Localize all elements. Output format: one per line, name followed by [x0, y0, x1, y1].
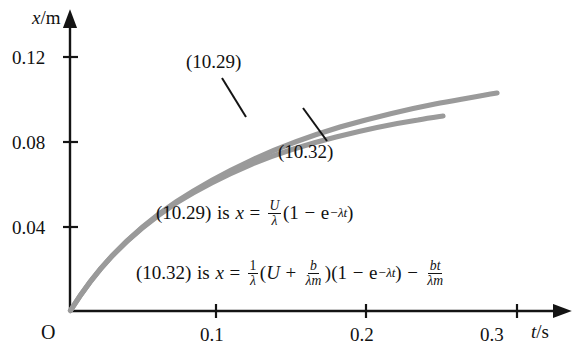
origin-label: O	[41, 322, 55, 342]
eq1-exponent: −λt	[329, 206, 347, 219]
eq2-lhs: x	[215, 263, 223, 282]
x-axis-label-unit: /s	[536, 321, 549, 342]
leader-line-10-29	[222, 78, 246, 117]
eq2-equals: =	[230, 263, 241, 282]
eq1-minus: −	[304, 203, 315, 222]
eq1-equals: =	[250, 203, 261, 222]
eq1-fraction-u-lambda: U λ	[268, 199, 282, 228]
eq2-frac1-numerator: 1	[248, 259, 259, 274]
x-axis-label: t/s	[531, 322, 549, 341]
eq1-frac-denominator: λ	[269, 214, 279, 228]
eq1-close-paren: )	[347, 203, 353, 222]
figure-container: x/m t/s 0.12 0.08 0.04 0.1 0.2 0.3 O (10…	[0, 0, 585, 362]
y-tick-label-0-12: 0.12	[12, 48, 45, 67]
eq2-frac3-denominator: λm	[425, 274, 445, 288]
eq1-ref: (10.29)	[156, 203, 211, 222]
y-axis-label-unit: /m	[40, 7, 60, 28]
plot-canvas	[0, 0, 585, 362]
eq2-fraction-one-lambda: 1 λ	[248, 259, 259, 288]
eq1-open-paren: (1	[283, 203, 299, 222]
eq2-frac2-denominator: λm	[304, 274, 324, 288]
eq1-e: e	[321, 203, 329, 222]
eq2-minus-2: −	[407, 263, 418, 282]
eq2-minus-1: −	[353, 263, 364, 282]
eq2-ref: (10.32)	[136, 263, 191, 282]
x-tick-label-0-3: 0.3	[480, 325, 504, 344]
curve-label-10-32: (10.32)	[278, 142, 333, 161]
eq2-fraction-b-lambdam: b λm	[304, 259, 324, 288]
y-axis-label: x/m	[32, 8, 61, 27]
eq2-frac3-numerator: bt	[428, 259, 443, 274]
eq2-frac2-numerator: b	[308, 259, 319, 274]
curve-label-10-29: (10.29)	[186, 52, 241, 71]
eq2-u: U	[266, 263, 280, 282]
equation-10-32: (10.32) is x = 1 λ ( U + b λm ) (1 − e−λ…	[136, 258, 447, 287]
eq1-lhs: x	[235, 203, 243, 222]
y-tick-label-0-08: 0.08	[12, 133, 45, 152]
eq2-e: e	[369, 263, 377, 282]
eq2-is: is	[197, 263, 210, 282]
eq1-frac-numerator: U	[268, 199, 282, 214]
eq1-is: is	[217, 203, 230, 222]
x-tick-label-0-2: 0.2	[350, 325, 374, 344]
eq2-frac1-denominator: λ	[248, 274, 258, 288]
y-tick-label-0-04: 0.04	[12, 218, 45, 237]
eq2-exponent: −λt	[377, 266, 395, 279]
eq2-plus: +	[286, 263, 297, 282]
x-tick-label-0-1: 0.1	[200, 325, 224, 344]
eq2-open-paren-2: (1	[331, 263, 347, 282]
eq2-fraction-bt-lambdam: bt λm	[425, 259, 445, 288]
equation-10-29: (10.29) is x = U λ (1 − e−λt)	[156, 198, 353, 227]
eq2-close-paren-2: )	[395, 263, 401, 282]
